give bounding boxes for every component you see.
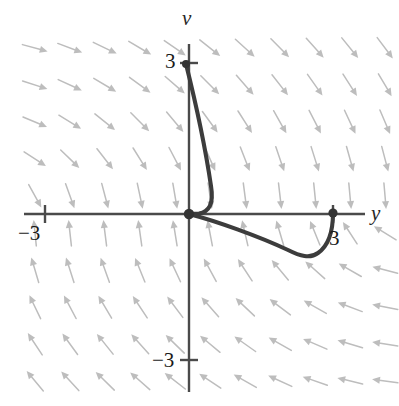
field-arrow-head — [275, 221, 282, 230]
field-arrow — [29, 295, 40, 318]
field-arrow — [133, 148, 147, 170]
field-arrow — [268, 376, 292, 387]
field-arrow-shaft — [342, 38, 355, 54]
field-arrow-shaft — [273, 378, 292, 387]
field-arrow-shaft — [343, 74, 354, 92]
field-arrow-shaft — [200, 40, 216, 53]
field-arrow — [342, 38, 358, 58]
field-arrow — [234, 375, 257, 388]
field-arrow-head — [372, 303, 380, 310]
field-arrow-shaft — [271, 39, 286, 54]
field-arrow-head — [210, 124, 218, 132]
field-arrow-shaft — [236, 75, 250, 91]
field-arrow — [377, 38, 393, 59]
field-arrow — [93, 42, 116, 53]
field-arrow-shaft — [238, 377, 256, 387]
field-arrow-shaft — [174, 225, 177, 246]
tick-label-y-3: 3 — [329, 228, 340, 249]
tick-label-v-neg-3: −3 — [152, 350, 174, 371]
field-arrow-shaft — [30, 375, 43, 391]
field-arrow — [304, 301, 327, 314]
field-arrow-head — [278, 163, 285, 172]
field-arrow-shaft — [343, 266, 361, 276]
field-arrow-shaft — [240, 147, 248, 166]
origin-point — [184, 209, 194, 219]
field-arrow-head — [270, 299, 278, 307]
field-arrow-shaft — [133, 148, 144, 166]
field-arrow-head — [347, 201, 354, 209]
field-arrow — [234, 337, 255, 352]
field-arrow — [171, 220, 178, 246]
field-arrow — [238, 111, 252, 133]
field-arrow — [235, 39, 254, 56]
field-arrow — [337, 376, 362, 384]
field-arrow — [338, 339, 363, 348]
field-arrow — [372, 303, 398, 310]
field-arrow-shaft — [378, 268, 398, 273]
field-arrow-head — [105, 161, 113, 169]
field-arrow-head — [142, 85, 150, 93]
field-arrow-shaft — [243, 183, 246, 204]
field-arrow — [372, 340, 398, 347]
field-arrow-head — [372, 265, 381, 272]
field-arrow — [129, 41, 151, 54]
field-arrow-head — [238, 259, 245, 268]
field-arrow-shaft — [204, 377, 221, 389]
field-arrow-shaft — [308, 303, 326, 313]
field-arrow — [61, 150, 80, 168]
field-arrow — [200, 40, 220, 56]
field-arrow-shaft — [239, 302, 254, 316]
field-arrow-shaft — [377, 380, 398, 383]
field-arrow-head — [171, 220, 178, 228]
field-arrow-shaft — [205, 301, 219, 317]
field-arrow — [277, 183, 284, 209]
field-arrow-shaft — [309, 110, 319, 128]
field-arrow — [58, 80, 82, 91]
field-arrow-head — [39, 46, 48, 53]
field-arrow-shaft — [202, 112, 214, 129]
field-arrow-head — [372, 340, 380, 347]
field-arrow-shaft — [209, 225, 213, 246]
field-arrow — [345, 110, 356, 134]
field-arrow — [305, 261, 324, 278]
field-arrow — [380, 110, 391, 134]
field-arrow-shaft — [380, 110, 388, 129]
field-arrow-shaft — [100, 338, 113, 354]
field-arrow-shaft — [104, 225, 107, 246]
field-arrow — [170, 258, 181, 282]
field-arrow-head — [138, 200, 145, 208]
field-arrow-head — [133, 296, 140, 305]
field-arrow — [202, 112, 217, 133]
field-arrow-shaft — [33, 263, 39, 283]
field-arrow-shaft — [23, 81, 43, 87]
field-arrow-shaft — [61, 150, 76, 164]
field-arrow — [66, 184, 76, 208]
field-arrow-shaft — [173, 183, 177, 204]
field-arrow-head — [234, 337, 242, 345]
field-arrow-head — [245, 125, 252, 134]
field-arrow-head — [28, 333, 35, 342]
field-arrow-head — [315, 87, 322, 95]
field-arrow-shaft — [32, 300, 41, 319]
tick-label-v-3: 3 — [165, 51, 176, 72]
field-arrow — [343, 74, 357, 96]
field-arrow — [382, 183, 389, 209]
field-arrow-shaft — [139, 225, 142, 246]
field-arrow-shaft — [23, 117, 42, 125]
field-arrow — [28, 333, 42, 355]
field-arrow — [102, 183, 110, 208]
field-arrow — [130, 372, 150, 389]
field-arrow-shaft — [308, 74, 320, 91]
field-arrow — [310, 221, 320, 245]
field-arrow — [136, 220, 143, 246]
field-arrow-shaft — [239, 340, 256, 352]
field-arrow-head — [101, 220, 108, 228]
field-arrow-head — [66, 220, 73, 228]
field-arrow-shaft — [349, 183, 351, 204]
field-plot-canvas — [0, 0, 399, 406]
field-arrow — [22, 45, 47, 53]
field-arrow — [96, 372, 115, 390]
field-arrow-shaft — [167, 112, 180, 128]
field-arrow — [94, 78, 116, 91]
tick-label-y-neg-3: −3 — [18, 223, 40, 244]
